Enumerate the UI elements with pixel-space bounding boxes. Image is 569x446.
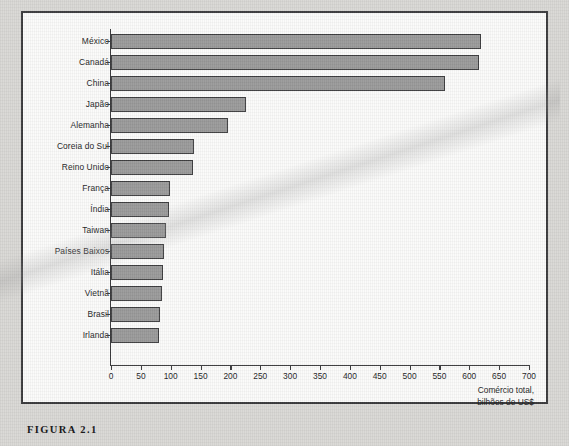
- y-axis-line: [110, 29, 111, 366]
- x-axis-tick: [380, 365, 381, 370]
- x-axis-tick-label: 100: [164, 371, 178, 381]
- category-label: Canadá: [79, 52, 109, 73]
- x-axis-tick-label: 350: [313, 371, 327, 381]
- bar-row: Canadá: [23, 52, 550, 73]
- bar: [111, 181, 170, 196]
- x-axis-tick: [171, 365, 172, 370]
- category-label: Alemanha: [70, 115, 109, 136]
- bar: [111, 307, 160, 322]
- x-axis-tick-label: 150: [194, 371, 208, 381]
- bar-rows: MéxicoCanadáChinaJapãoAlemanhaCoreia do …: [23, 31, 550, 346]
- x-axis-title: Comércio total, bilhões de US$: [477, 385, 534, 408]
- category-label: México: [82, 31, 109, 52]
- bar-row: México: [23, 31, 550, 52]
- bar: [111, 223, 166, 238]
- bar: [111, 139, 194, 154]
- figure-caption: FIGURA 2.1: [27, 424, 98, 435]
- bar-row: Índia: [23, 199, 550, 220]
- bar-row: Japão: [23, 94, 550, 115]
- bar: [111, 34, 481, 49]
- x-axis-tick: [260, 365, 261, 370]
- bar-row: França: [23, 178, 550, 199]
- category-label: Taiwan: [82, 220, 109, 241]
- bar-row: Brasil: [23, 304, 550, 325]
- x-axis-title-line-1: Comércio total,: [477, 385, 534, 397]
- x-axis-tick-label: 200: [223, 371, 237, 381]
- bar-chart-plot: MéxicoCanadáChinaJapãoAlemanhaCoreia do …: [23, 13, 550, 406]
- category-label: Reino Unido: [62, 157, 109, 178]
- bar: [111, 328, 159, 343]
- bar-row: Taiwan: [23, 220, 550, 241]
- x-axis-tick: [410, 365, 411, 370]
- bar: [111, 265, 163, 280]
- x-axis-tick: [290, 365, 291, 370]
- bar: [111, 55, 479, 70]
- x-axis-tick: [350, 365, 351, 370]
- x-axis-tick-label: 300: [283, 371, 297, 381]
- x-axis-tick-label: 400: [343, 371, 357, 381]
- x-axis-tick-label: 250: [253, 371, 267, 381]
- x-axis-title-line-2: bilhões de US$: [477, 397, 534, 409]
- bar: [111, 97, 246, 112]
- x-axis-tick: [141, 365, 142, 370]
- x-axis-tick: [439, 365, 440, 370]
- x-axis-tick-label: 450: [373, 371, 387, 381]
- bar-row: Itália: [23, 262, 550, 283]
- bar-row: Reino Unido: [23, 157, 550, 178]
- bar-row: China: [23, 73, 550, 94]
- bar: [111, 76, 445, 91]
- bar: [111, 244, 164, 259]
- x-axis-tick: [320, 365, 321, 370]
- x-axis-tick: [529, 365, 530, 370]
- x-axis-tick-label: 650: [492, 371, 506, 381]
- bar-row: Países Baixos: [23, 241, 550, 262]
- category-label: França: [82, 178, 109, 199]
- figure-frame: MéxicoCanadáChinaJapãoAlemanhaCoreia do …: [21, 11, 548, 404]
- x-axis-tick: [201, 365, 202, 370]
- bar: [111, 160, 193, 175]
- x-axis-tick-label: 500: [403, 371, 417, 381]
- bar: [111, 118, 228, 133]
- bar-row: Coreia do Sul: [23, 136, 550, 157]
- x-axis-tick: [469, 365, 470, 370]
- bar-row: Alemanha: [23, 115, 550, 136]
- x-axis-tick-label: 0: [109, 371, 114, 381]
- x-axis-tick-label: 550: [432, 371, 446, 381]
- bar: [111, 286, 162, 301]
- x-axis-tick: [111, 365, 112, 370]
- bar-row: Irlanda: [23, 325, 550, 346]
- bar-row: Vietnã: [23, 283, 550, 304]
- category-label: Países Baixos: [55, 241, 109, 262]
- x-axis-tick: [230, 365, 231, 370]
- x-axis-tick-label: 50: [136, 371, 145, 381]
- category-label: Coreia do Sul: [57, 136, 109, 157]
- x-axis-tick: [499, 365, 500, 370]
- bar: [111, 202, 169, 217]
- x-axis-tick-label: 700: [522, 371, 536, 381]
- x-axis-tick-label: 600: [462, 371, 476, 381]
